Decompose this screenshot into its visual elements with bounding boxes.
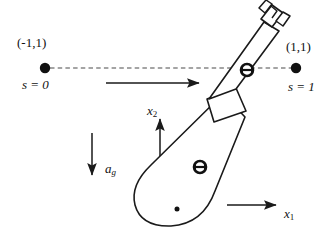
start-point-coordinate-label: (-1,1) — [17, 36, 46, 49]
arm-link — [209, 22, 279, 99]
pivot-joint-marker — [241, 64, 253, 76]
gravity-label: ag — [105, 162, 116, 177]
end-point-parameter-label: s = 1 — [288, 80, 315, 93]
diagram-canvas — [0, 0, 330, 246]
axis-x2-label: x2 — [147, 104, 157, 119]
body-center-dot — [175, 207, 180, 212]
body-orientation-marker — [194, 161, 206, 173]
gravity-subscript: g — [112, 167, 117, 177]
start-point-dot — [40, 63, 50, 73]
axis-x1-label: x1 — [284, 207, 294, 222]
axis-x2-subscript: 2 — [153, 109, 158, 119]
end-point-dot — [291, 63, 301, 73]
axis-x1-subscript: 1 — [290, 212, 295, 222]
robot-arm-diagram: (-1,1) s = 0 (1,1) s = 1 x2 x1 ag — [0, 0, 330, 246]
start-point-parameter-label: s = 0 — [22, 78, 49, 91]
end-point-coordinate-label: (1,1) — [286, 40, 311, 53]
